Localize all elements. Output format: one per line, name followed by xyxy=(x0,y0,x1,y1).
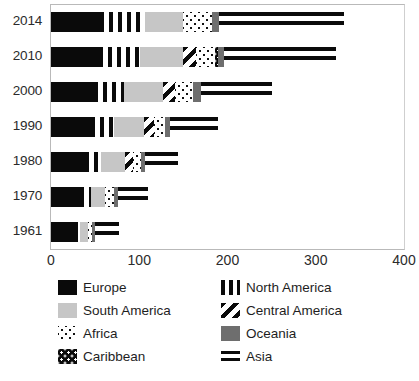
bar-row xyxy=(51,12,404,32)
legend-swatch-icon xyxy=(221,326,240,341)
bar-row xyxy=(51,47,404,67)
bar-segment-central-america xyxy=(163,82,175,102)
legend-swatch-icon xyxy=(221,303,240,318)
legend-swatch-icon xyxy=(58,303,77,318)
legend-swatch-icon xyxy=(58,349,77,364)
legend-label: South America xyxy=(83,303,171,318)
bar-segment-south-america xyxy=(80,222,88,242)
legend-item-south-america[interactable]: South America xyxy=(58,299,218,322)
legend-swatch-icon xyxy=(58,326,77,341)
legend-label: Europe xyxy=(83,280,127,295)
bar-row xyxy=(51,222,404,242)
x-tick-400: 400 xyxy=(384,252,419,268)
legend-column-left: EuropeSouth AmericaAfricaCaribbean xyxy=(58,276,218,368)
bar-segment-north-america xyxy=(85,152,102,172)
y-axis-tick-labels: 2014201020001990198019701961 xyxy=(0,4,46,250)
bar-segment-africa xyxy=(133,152,141,172)
bar-segment-europe xyxy=(51,47,99,67)
bar-chart: 2014201020001990198019701961 01002003004… xyxy=(0,0,419,381)
legend-item-central-america[interactable]: Central America xyxy=(221,299,381,322)
plot-area: 2014201020001990198019701961 xyxy=(0,0,419,262)
bar-segment-africa xyxy=(196,47,215,67)
bar-segment-europe xyxy=(51,117,91,137)
bar-segment-europe xyxy=(51,82,94,102)
bar-segment-asia xyxy=(224,47,336,67)
bar-segment-central-america xyxy=(125,152,133,172)
bar-series-layer xyxy=(51,5,404,249)
legend-item-asia[interactable]: Asia xyxy=(221,345,381,368)
y-tick-1980: 1980 xyxy=(0,154,42,168)
bar-segment-south-america xyxy=(114,117,144,137)
bar-segment-europe xyxy=(51,187,80,207)
x-tick-100: 100 xyxy=(119,252,159,268)
bar-segment-oceania xyxy=(193,82,201,102)
bar-row xyxy=(51,187,404,207)
chart-legend: EuropeSouth AmericaAfricaCaribbean North… xyxy=(58,276,388,376)
bar-segment-north-america xyxy=(91,117,114,137)
legend-label: Asia xyxy=(246,349,272,364)
bar-segment-europe xyxy=(51,12,100,32)
legend-item-north-america[interactable]: North America xyxy=(221,276,381,299)
legend-label: Caribbean xyxy=(83,349,145,364)
legend-swatch-icon xyxy=(58,280,77,295)
x-tick-300: 300 xyxy=(296,252,336,268)
legend-swatch-icon xyxy=(221,349,240,364)
legend-item-caribbean[interactable]: Caribbean xyxy=(58,345,218,368)
legend-item-oceania[interactable]: Oceania xyxy=(221,322,381,345)
y-tick-1970: 1970 xyxy=(0,189,42,203)
bar-segment-north-america xyxy=(80,187,91,207)
bar-segment-south-america xyxy=(140,47,183,67)
x-tick-200: 200 xyxy=(208,252,248,268)
bar-segment-south-america xyxy=(145,12,183,32)
y-tick-1961: 1961 xyxy=(0,224,42,238)
bar-segment-europe xyxy=(51,152,85,172)
y-tick-2014: 2014 xyxy=(0,14,42,28)
bar-segment-africa xyxy=(175,82,193,102)
bar-segment-south-america xyxy=(124,82,163,102)
bar-row xyxy=(51,117,404,137)
legend-column-right: North AmericaCentral AmericaOceaniaAsia xyxy=(221,276,381,368)
bar-segment-central-america xyxy=(144,117,155,137)
y-tick-2010: 2010 xyxy=(0,49,42,63)
bar-segment-africa xyxy=(183,12,211,32)
x-axis-tick-labels: 0100200300400 xyxy=(0,250,419,274)
bar-segment-europe xyxy=(51,222,74,242)
x-tick-0: 0 xyxy=(31,252,71,268)
bar-segment-south-america xyxy=(101,152,125,172)
bar-segment-south-america xyxy=(91,187,105,207)
legend-label: Oceania xyxy=(246,326,296,341)
bar-row xyxy=(51,82,404,102)
bar-segment-asia xyxy=(201,82,272,102)
bar-segment-asia xyxy=(95,222,119,242)
y-tick-1990: 1990 xyxy=(0,119,42,133)
y-tick-2000: 2000 xyxy=(0,84,42,98)
bar-segment-north-america xyxy=(94,82,124,102)
bar-segment-north-america xyxy=(100,12,145,32)
bar-segment-asia xyxy=(219,12,344,32)
bar-segment-asia xyxy=(170,117,218,137)
bar-segment-asia xyxy=(145,152,178,172)
legend-swatch-icon xyxy=(221,280,240,295)
bar-segment-oceania xyxy=(212,12,219,32)
legend-label: Africa xyxy=(83,326,118,341)
bar-segment-asia xyxy=(118,187,148,207)
bar-segment-north-america xyxy=(99,47,140,67)
legend-item-africa[interactable]: Africa xyxy=(58,322,218,345)
bar-segment-africa xyxy=(154,117,165,137)
bar-segment-africa xyxy=(105,187,114,207)
legend-label: North America xyxy=(246,280,332,295)
legend-item-europe[interactable]: Europe xyxy=(58,276,218,299)
bar-row xyxy=(51,152,404,172)
bar-segment-central-america xyxy=(183,47,195,67)
legend-label: Central America xyxy=(246,303,342,318)
